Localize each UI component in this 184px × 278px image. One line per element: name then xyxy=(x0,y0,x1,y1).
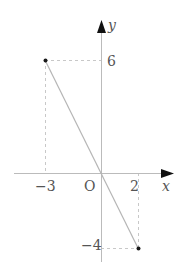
y-axis-arrow-icon xyxy=(97,20,106,33)
x-axis-label: x xyxy=(162,178,170,194)
point-2-neg4 xyxy=(137,247,141,251)
coordinate-diagram: y x O 6 −3 2 −4 xyxy=(0,0,184,278)
y-axis-label: y xyxy=(107,17,117,33)
point-neg3-6 xyxy=(44,59,48,63)
x-axis-arrow-icon xyxy=(161,169,174,178)
tick-label-y-6: 6 xyxy=(107,53,116,69)
tick-label-x-2: 2 xyxy=(130,178,139,194)
origin-label: O xyxy=(84,178,95,194)
tick-label-y-neg4: −4 xyxy=(81,237,102,253)
line-y-eq-neg2x xyxy=(45,60,138,248)
tick-label-x-neg3: −3 xyxy=(35,178,56,194)
